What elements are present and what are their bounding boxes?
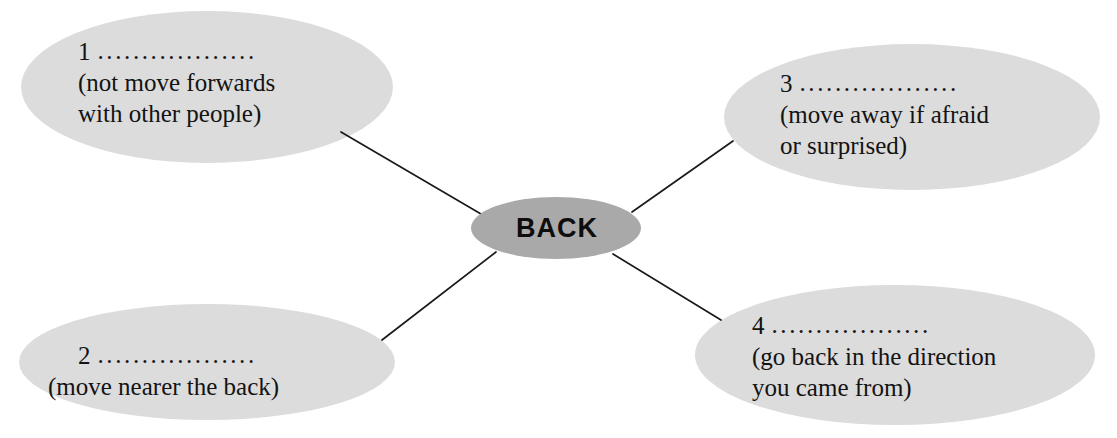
connector-center-to-1 (341, 132, 481, 214)
node-gloss-4-line-1: (go back in the direction (752, 341, 996, 372)
node-blank-2[interactable]: .................. (98, 339, 257, 370)
node-text-4: 4.................. (go back in the dire… (752, 310, 996, 403)
node-blank-4[interactable]: .................. (772, 309, 931, 340)
node-number-3: 3 (780, 70, 793, 97)
node-blank-row-2: 2.................. (78, 340, 279, 371)
connector-center-to-3 (632, 141, 733, 212)
node-blank-row-4: 4.................. (752, 310, 996, 341)
node-text-1: 1.................. (not move forwards w… (78, 36, 275, 129)
node-gloss-4-line-2: you came from) (752, 372, 996, 403)
node-number-2: 2 (78, 342, 91, 369)
node-text-3: 3.................. (move away if afraid… (780, 68, 989, 161)
node-text-2: 2.................. (move nearer the bac… (48, 340, 279, 402)
node-gloss-3-line-2: or surprised) (780, 130, 989, 161)
node-gloss-2-line-1: (move nearer the back) (48, 371, 279, 402)
connector-center-to-4 (613, 254, 721, 320)
mind-map-diagram: BACK 1.................. (not move forwa… (0, 0, 1117, 438)
node-blank-1[interactable]: .................. (98, 35, 257, 66)
node-gloss-1-line-2: with other people) (78, 98, 275, 129)
node-gloss-3-line-1: (move away if afraid (780, 99, 989, 130)
node-blank-row-1: 1.................. (78, 36, 275, 67)
connector-center-to-2 (382, 252, 496, 340)
node-blank-row-3: 3.................. (780, 68, 989, 99)
node-blank-3[interactable]: .................. (800, 67, 959, 98)
node-number-4: 4 (752, 312, 765, 339)
node-gloss-1-line-1: (not move forwards (78, 67, 275, 98)
node-number-1: 1 (78, 38, 91, 65)
center-node-label: BACK (516, 213, 598, 244)
